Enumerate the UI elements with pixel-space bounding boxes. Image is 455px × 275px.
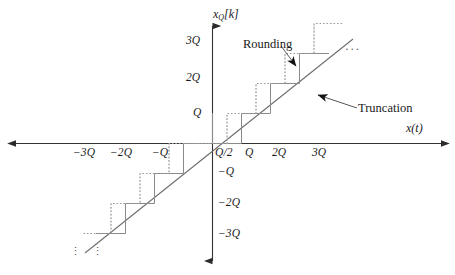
y-tick-label-minus-2q: −2Q [218, 197, 240, 209]
y-tick-label-minus-q: −Q [218, 166, 234, 178]
x-tick-label-2q: 2Q [272, 147, 286, 159]
x-tick-label-minus-q: −Q [152, 147, 168, 159]
truncation-annotation-label: Truncation [358, 102, 412, 115]
figure-canvas: xQ[k] x(t) −3Q −2Q −Q Q/2 Q 2Q 3Q 3Q 2Q … [0, 0, 455, 275]
lower-left-ellipsis-2: ⋮ [92, 250, 93, 253]
x-tick-label-q: Q [245, 147, 253, 159]
y-tick-label-q: Q [193, 107, 201, 119]
x-axis-label: x(t) [406, 122, 423, 134]
x-tick-label-minus-2q: −2Q [110, 147, 132, 159]
lower-left-ellipsis-1: ⋮ [70, 250, 71, 253]
y-axis-label-index: [k] [224, 7, 239, 21]
y-tick-label-3q: 3Q [186, 35, 200, 47]
x-tick-label-minus-3q: −3Q [73, 147, 95, 159]
x-tick-label-3q: 3Q [312, 147, 326, 159]
y-tick-label-2q: 2Q [186, 72, 200, 84]
rounding-annotation-label: Rounding [243, 38, 292, 51]
upper-right-ellipsis: ··· [345, 43, 361, 55]
y-tick-label-minus-3q: −3Q [218, 228, 240, 240]
x-tick-label-q-over-2: Q/2 [215, 147, 233, 159]
y-axis-label-subscript: Q [218, 13, 224, 22]
y-axis-label: xQ[k] [213, 8, 239, 20]
